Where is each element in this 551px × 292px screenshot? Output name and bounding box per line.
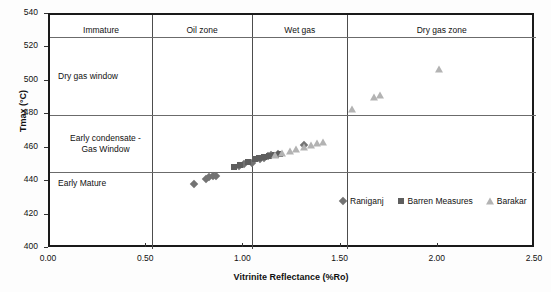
legend-marker-triangle-icon xyxy=(486,197,494,205)
data-point-triangle xyxy=(300,144,308,151)
data-point-diamond xyxy=(209,172,217,180)
data-point-diamond xyxy=(260,153,268,161)
data-point-diamond xyxy=(201,175,209,183)
y-tick-label: 440 xyxy=(0,174,38,184)
legend-entry[interactable]: Barakar xyxy=(486,196,527,206)
legend-entry[interactable]: Barren Measures xyxy=(397,196,473,206)
zone-divider-vertical xyxy=(252,15,253,249)
y-tick-label: 500 xyxy=(0,74,38,84)
x-tick-mark xyxy=(437,243,438,247)
zone-divider-vertical xyxy=(152,15,153,249)
x-tick-mark xyxy=(242,243,243,247)
x-tick-label: 1.50 xyxy=(315,253,365,263)
legend-label: Barren Measures xyxy=(408,196,473,206)
data-point-diamond xyxy=(190,180,198,188)
maturity-zone-label: Early condensate - Gas Window xyxy=(58,133,153,154)
data-point-square xyxy=(231,164,237,170)
chart-legend: RaniganjBarren MeasuresBarakar xyxy=(339,196,527,206)
process-zone-label: Dry gas zone xyxy=(347,25,536,36)
data-point-triangle xyxy=(278,149,286,156)
maturity-zone-label: Early Mature xyxy=(58,178,106,189)
data-point-triangle xyxy=(292,146,300,153)
y-tick-label: 460 xyxy=(0,141,38,151)
process-zone-label: Wet gas xyxy=(252,25,347,36)
vitrinite-reflectance-tmax-scatter-chart: Tmax (°C) 400420440460480500520540 Immat… xyxy=(0,0,551,292)
data-point-diamond xyxy=(263,152,271,160)
y-tick-label: 520 xyxy=(0,40,38,50)
legend-label: Raniganj xyxy=(350,196,384,206)
data-point-square xyxy=(237,162,243,168)
process-zone-label: Immature xyxy=(50,25,152,36)
x-tick-label: 0.00 xyxy=(23,253,73,263)
x-tick-label: 1.00 xyxy=(217,253,267,263)
data-point-square xyxy=(256,155,262,161)
data-point-square xyxy=(272,152,278,158)
data-point-triangle xyxy=(313,140,321,147)
y-tick-label: 540 xyxy=(0,7,38,17)
x-tick-label: 2.00 xyxy=(412,253,462,263)
legend-marker-diamond-icon xyxy=(339,197,347,205)
y-tick-label: 420 xyxy=(0,208,38,218)
data-point-triangle xyxy=(271,152,279,159)
data-point-diamond xyxy=(266,151,274,159)
data-point-triangle xyxy=(319,139,327,146)
process-zone-label: Oil zone xyxy=(152,25,252,36)
x-axis-title: Vitrinite Reflectance (%Ro) xyxy=(48,272,534,282)
plot-area: ImmatureDry gas windowEarly condensate -… xyxy=(48,13,534,247)
data-point-diamond xyxy=(205,173,213,181)
x-tick-mark xyxy=(340,243,341,247)
zone-divider-horizontal xyxy=(50,115,536,116)
data-point-diamond xyxy=(256,155,264,163)
x-tick-mark xyxy=(145,243,146,247)
x-tick-label: 2.50 xyxy=(509,253,551,263)
y-tick-mark xyxy=(44,247,48,248)
legend-marker-square-icon xyxy=(397,197,405,205)
legend-label: Barakar xyxy=(497,196,527,206)
data-point-triangle xyxy=(435,66,443,73)
data-point-triangle xyxy=(307,142,315,149)
data-point-square xyxy=(277,151,283,157)
y-tick-label: 480 xyxy=(0,107,38,117)
y-tick-label: 400 xyxy=(0,241,38,251)
zone-divider-horizontal xyxy=(50,172,536,173)
data-point-diamond xyxy=(274,150,282,158)
data-point-square xyxy=(245,159,251,165)
data-point-diamond xyxy=(240,160,248,168)
data-point-square xyxy=(261,154,267,160)
data-point-diamond xyxy=(234,162,242,170)
legend-entry[interactable]: Raniganj xyxy=(339,196,384,206)
zone-divider-horizontal xyxy=(50,37,536,38)
x-tick-label: 0.50 xyxy=(120,253,170,263)
maturity-zone-label: Dry gas window xyxy=(58,71,118,82)
data-point-diamond xyxy=(299,141,307,149)
data-point-square xyxy=(266,153,272,159)
data-point-triangle xyxy=(348,105,356,112)
data-point-triangle xyxy=(376,91,384,98)
data-point-triangle xyxy=(286,148,294,155)
zone-divider-vertical xyxy=(347,15,348,249)
data-point-triangle xyxy=(370,93,378,100)
